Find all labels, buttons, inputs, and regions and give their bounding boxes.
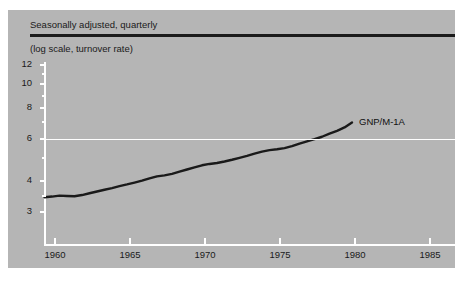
y-tick-minor-5 — [42, 157, 46, 159]
y-tick-8 — [40, 107, 46, 109]
y-tick-minor-7 — [42, 121, 46, 123]
series-line-gnp-m1a — [45, 122, 353, 197]
series-label-gnp-m1a: GNP/M-1A — [359, 116, 405, 127]
y-tick-label-4: 4 — [10, 174, 32, 185]
y-tick-3 — [40, 211, 46, 213]
chart-panel: Seasonally adjusted, quarterly (log scal… — [8, 10, 455, 268]
y-tick-12 — [40, 64, 46, 66]
x-tick-label-1975: 1975 — [260, 249, 300, 260]
x-tick-label-1985: 1985 — [410, 249, 450, 260]
y-tick-10 — [40, 83, 46, 85]
x-tick-label-1965: 1965 — [110, 249, 150, 260]
y-tick-label-10: 10 — [10, 77, 32, 88]
y-tick-label-8: 8 — [10, 101, 32, 112]
x-tick-1985 — [429, 238, 431, 246]
figure-caption: FIGURE 4 — [6, 0, 54, 2]
x-tick-1975 — [279, 238, 281, 246]
gridline-6 — [46, 139, 455, 140]
x-tick-1980 — [354, 238, 356, 246]
y-tick-minor-11 — [42, 73, 46, 75]
x-tick-label-1960: 1960 — [35, 249, 75, 260]
x-tick-1965 — [129, 238, 131, 246]
x-tick-1960 — [54, 238, 56, 246]
y-tick-label-6: 6 — [10, 132, 32, 143]
y-tick-label-12: 12 — [10, 58, 32, 69]
y-tick-label-3: 3 — [10, 205, 32, 216]
y-tick-minor-9 — [42, 95, 46, 97]
x-tick-1970 — [204, 238, 206, 246]
x-tick-label-1970: 1970 — [185, 249, 225, 260]
y-tick-4 — [40, 180, 46, 182]
x-tick-label-1980: 1980 — [335, 249, 375, 260]
y-tick-minor-3.5 — [42, 195, 46, 197]
